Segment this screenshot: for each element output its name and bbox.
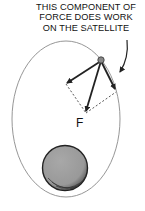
component-dashed-lines <box>66 84 116 113</box>
caption: THIS COMPONENT OF FORCE DOES WORK ON THE… <box>28 2 144 33</box>
caption-line-2: FORCE DOES WORK <box>28 12 144 22</box>
satellite-icon <box>98 57 104 63</box>
tangential-component-arrow <box>101 61 115 89</box>
force-vectors <box>67 61 115 111</box>
planet-icon <box>43 146 88 191</box>
force-label: F <box>76 116 83 130</box>
caption-line-3: ON THE SATELLITE <box>28 23 144 33</box>
diagram-canvas: THIS COMPONENT OF FORCE DOES WORK ON THE… <box>0 0 145 211</box>
pointer-arrow-icon <box>120 40 127 72</box>
caption-line-1: THIS COMPONENT OF <box>28 2 144 12</box>
